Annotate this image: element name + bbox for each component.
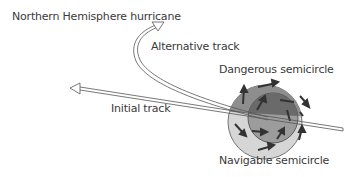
hurricane-diagram [0,0,364,177]
initial-track-label: Initial track [111,102,170,115]
navigable-semicircle-label: Navigable semicircle [219,154,329,167]
diagram-title: Northern Hemisphere hurricane [12,10,181,23]
dangerous-semicircle-label: Dangerous semicircle [219,63,334,76]
alternative-track-label: Alternative track [151,40,239,53]
